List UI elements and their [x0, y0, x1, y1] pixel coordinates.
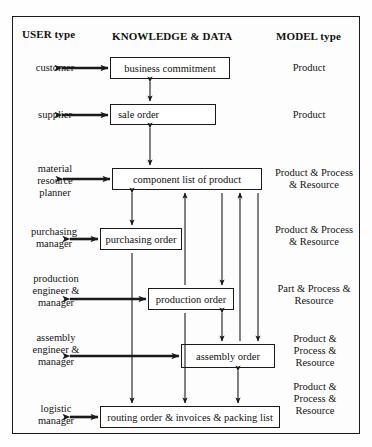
model-label-row-7-line-3: Resource [272, 405, 358, 417]
user-label-material-resource-planner-line-2: resource [16, 175, 94, 187]
user-label-logistic-line-2: manager [16, 415, 96, 427]
model-label-row-3-line-2: & Resource [268, 179, 360, 191]
user-label-material-resource-planner-line-3: planner [16, 187, 94, 199]
model-label-row-2: Product [278, 109, 340, 121]
kd-box-assembly-order[interactable]: assembly order [181, 344, 275, 368]
model-label-row-6-line-3: Resource [272, 357, 358, 369]
user-label-production-line-3: manager [16, 297, 96, 309]
kd-box-sale-order[interactable]: sale order [110, 104, 216, 125]
model-label-row-1: Product [278, 62, 340, 74]
model-label-row-3-line-1: Product & Process [268, 167, 360, 179]
user-label-purchasing-manager-line-1: purchasing [16, 226, 92, 238]
header-knowledge-data: KNOWLEDGE & DATA [112, 30, 232, 42]
user-label-assembly-line-3: manager [16, 356, 96, 368]
kd-box-business-commitment[interactable]: business commitment [110, 57, 230, 79]
user-label-production-line-1: production [16, 273, 96, 285]
model-label-row-6-line-2: Process & [272, 345, 358, 357]
model-label-row-7-line-1: Product & [272, 381, 358, 393]
model-label-row-6-line-1: Product & [272, 333, 358, 345]
header-model-type: MODEL type [276, 30, 341, 42]
model-label-row-4-line-2: & Resource [268, 236, 360, 248]
user-label-assembly-line-2: engineer & [16, 344, 96, 356]
kd-box-production-order[interactable]: production order [148, 288, 234, 310]
user-label-production-line-2: engineer & [16, 285, 96, 297]
kd-box-routing-order[interactable]: routing order & invoices & packing list [100, 406, 280, 428]
model-label-row-4-line-1: Product & Process [268, 224, 360, 236]
model-label-row-5-line-2: Resource [268, 295, 360, 307]
kd-box-purchasing-order[interactable]: purchasing order [100, 228, 182, 250]
user-label-customer: customer [22, 62, 88, 74]
user-label-material-resource-planner-line-1: material [16, 163, 94, 175]
kd-box-component-list-of-product[interactable]: component list of product [112, 168, 262, 190]
user-label-assembly-line-1: assembly [16, 332, 96, 344]
user-label-purchasing-manager-line-2: manager [16, 238, 92, 250]
user-label-logistic-line-1: logistic [16, 403, 96, 415]
user-label-supplier: supplier [22, 109, 88, 121]
diagram-canvas: USER type KNOWLEDGE & DATA MODEL type cu… [0, 0, 372, 447]
header-user-type: USER type [22, 28, 75, 40]
model-label-row-7-line-2: Process & [272, 393, 358, 405]
model-label-row-5-line-1: Part & Process & [268, 283, 360, 295]
